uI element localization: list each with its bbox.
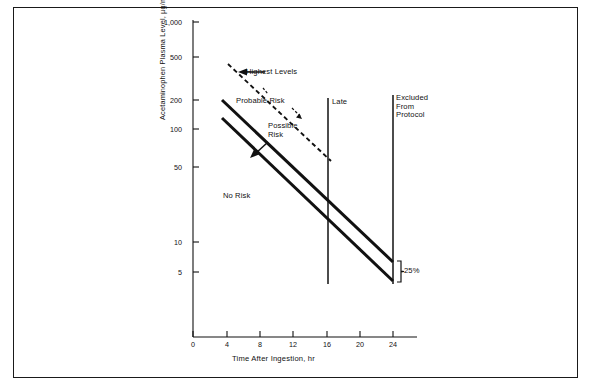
annotation-no-risk: No Risk (223, 192, 250, 201)
y-axis-ticks (193, 22, 199, 272)
probable-risk-leader-icon (292, 108, 302, 119)
x-axis-ticks (193, 331, 393, 337)
nomogram-plot: Acetaminophen Plasma Level, µg/mL 1,000 … (0, 0, 591, 389)
percent-bracket-icon (397, 261, 404, 282)
annotation-percent: 25% (404, 267, 420, 276)
annotation-highest-levels: Highest Levels (246, 68, 297, 77)
annotation-excluded-from-protocol: Excluded From Protocol (396, 94, 428, 120)
highest-levels-line (228, 64, 331, 161)
annotation-excluded-line3: Protocol (396, 111, 428, 120)
annotation-possible-risk-line2: Risk (268, 131, 298, 140)
annotation-probable-risk: Probable Risk (236, 97, 285, 106)
nomogram-vector-layer (0, 0, 591, 389)
probable-risk-tick-icon (263, 88, 268, 94)
annotation-late: Late (332, 98, 347, 107)
probable-risk-line (222, 100, 393, 262)
possible-risk-arrow-icon (250, 142, 268, 158)
annotation-possible-risk: Possible Risk (268, 122, 298, 139)
